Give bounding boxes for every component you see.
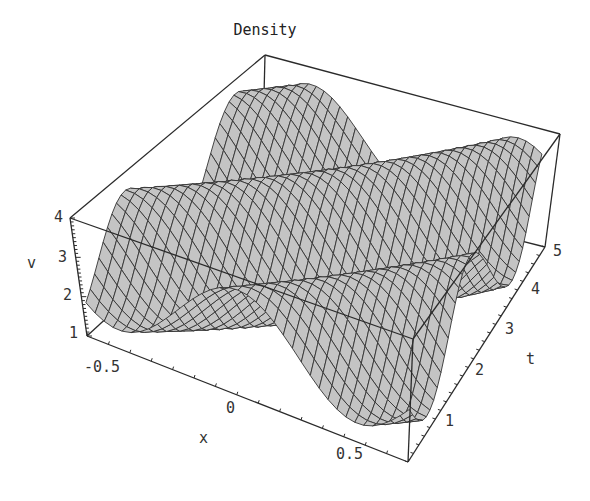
t-tick-label-4: 4 [531,280,540,298]
x-tick-label-neg0.5: -0.5 [84,358,120,376]
density-surface-plot: Density 4 3 2 1 v -0.5 0 0.5 x 1 2 3 4 5… [0,0,590,501]
v-tick-label-4: 4 [54,208,63,226]
x-axis-label: x [199,429,208,447]
v-tick-label-2: 2 [63,286,72,304]
x-tick-label-0.5: 0.5 [336,445,363,463]
v-tick-label-3: 3 [58,248,67,266]
t-tick-label-1: 1 [445,412,454,430]
t-tick-label-3: 3 [505,320,514,338]
x-tick-label-0: 0 [226,399,235,417]
t-tick-label-5: 5 [553,242,562,260]
chart-title: Density [233,21,296,39]
t-tick-label-2: 2 [475,361,484,379]
v-tick-label-1: 1 [69,324,78,342]
v-axis-label: v [27,254,36,272]
t-axis-label: t [526,350,535,368]
